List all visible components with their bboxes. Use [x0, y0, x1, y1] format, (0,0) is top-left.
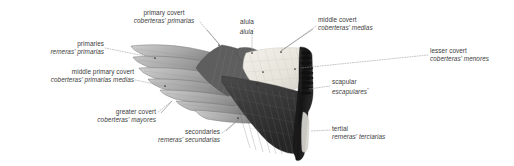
label-primaries-en: primaries — [0, 40, 104, 48]
label-lesser-covert-es: coberteras' menores — [430, 55, 489, 63]
label-lesser-covert-en: lesser covert — [430, 47, 489, 55]
label-greater-covert-en: greater covert — [20, 108, 156, 116]
label-scapular-es-text: escapulares — [332, 88, 367, 95]
label-secondaries-en: secondaries — [80, 128, 220, 136]
label-secondaries: secondaries remeras' secundarias — [80, 128, 220, 144]
label-middle-covert: middle covert coberteras' medias — [318, 16, 373, 32]
label-greater-covert-es: coberteras' mayores — [20, 116, 156, 124]
label-alula: alula álula' — [216, 18, 278, 37]
label-scapular-en: scapular — [332, 78, 369, 86]
label-lesser-covert: lesser covert coberteras' menores — [430, 47, 489, 63]
label-tertial-en: tertial — [332, 125, 385, 133]
label-primary-covert-es: coberteras' primarias — [100, 17, 228, 25]
label-tertial: tertial remeras' terciarias — [332, 125, 385, 141]
label-primaries: primaries remeras' primarias — [0, 40, 104, 56]
label-scapular-es: escapulares* — [332, 86, 369, 96]
label-middle-primary-covert-es: coberteras' primarias medias — [10, 76, 134, 84]
label-middle-covert-es: coberteras' medias — [318, 24, 373, 32]
label-greater-covert: greater covert coberteras' mayores — [20, 108, 156, 124]
label-middle-primary-covert: middle primary covert coberteras' primar… — [10, 68, 134, 84]
label-primary-covert: primary covert coberteras' primarias — [100, 9, 228, 25]
label-alula-footnote-marker: ' — [253, 27, 254, 32]
label-alula-es-text: álula — [240, 28, 254, 35]
label-tertial-es: remeras' terciarias — [332, 133, 385, 141]
label-middle-primary-covert-en: middle primary covert — [10, 68, 134, 76]
label-primaries-es: remeras' primarias — [0, 48, 104, 56]
label-scapular: scapular escapulares* — [332, 78, 369, 97]
label-middle-covert-en: middle covert — [318, 16, 373, 24]
label-primary-covert-en: primary covert — [100, 9, 228, 17]
wing-anatomy-diagram: primary covert coberteras' primarias alu… — [0, 0, 514, 166]
label-secondaries-es: remeras' secundarias — [80, 136, 220, 144]
label-scapular-footnote-marker: * — [367, 87, 369, 92]
label-alula-en: alula — [216, 18, 278, 26]
label-alula-es: álula' — [216, 26, 278, 36]
